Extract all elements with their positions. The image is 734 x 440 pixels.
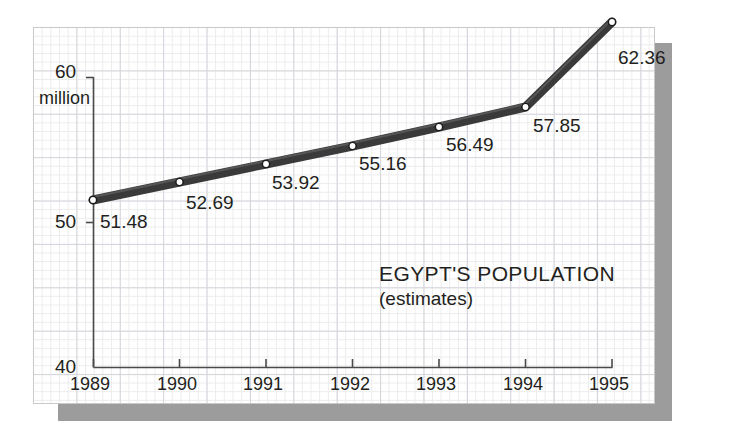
data-label-1989: 51.48 bbox=[100, 212, 148, 231]
x-tick-label-1994: 1994 bbox=[503, 375, 543, 393]
data-label-1991: 53.92 bbox=[272, 173, 320, 192]
chart-figure: 60 million 50 40 1989 1990 1991 1992 199… bbox=[0, 0, 734, 440]
data-label-1990: 52.69 bbox=[186, 193, 234, 212]
x-tick-label-1993: 1993 bbox=[416, 375, 456, 393]
data-point-1995 bbox=[608, 18, 615, 25]
data-label-1994: 57.85 bbox=[533, 116, 581, 135]
chart-subtitle: (estimates) bbox=[379, 289, 473, 308]
chart-title: EGYPT'S POPULATION bbox=[379, 263, 615, 284]
data-label-1995: 62.36 bbox=[618, 48, 666, 67]
x-tick-label-1991: 1991 bbox=[243, 375, 283, 393]
x-tick-label-1989: 1989 bbox=[70, 375, 110, 393]
y-tick-label-60: 60 bbox=[55, 62, 76, 81]
figure-shadow-right bbox=[655, 43, 672, 421]
y-axis-unit-label: million bbox=[39, 89, 90, 107]
y-tick-label-50: 50 bbox=[55, 212, 76, 231]
x-tick-label-1992: 1992 bbox=[330, 375, 370, 393]
data-label-1992: 55.16 bbox=[359, 154, 407, 173]
x-tick-label-1995: 1995 bbox=[589, 375, 629, 393]
x-tick-label-1990: 1990 bbox=[157, 375, 197, 393]
figure-shadow-bottom bbox=[58, 404, 672, 421]
data-label-1993: 56.49 bbox=[446, 135, 494, 154]
